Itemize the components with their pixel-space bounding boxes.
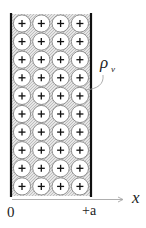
positive-charge-icon [52, 87, 69, 104]
positive-charge-icon [13, 69, 30, 86]
positive-charge-icon [52, 124, 69, 141]
positive-charge-icon [52, 105, 69, 122]
positive-charge-icon [13, 51, 30, 68]
positive-charge-icon [71, 105, 88, 122]
positive-charge-icon [52, 160, 69, 177]
positive-charge-icon [71, 178, 88, 195]
positive-charge-icon [71, 69, 88, 86]
positive-charge-icon [52, 15, 69, 32]
positive-charge-icon [33, 15, 50, 32]
positive-charge-icon [71, 51, 88, 68]
positive-charge-icon [33, 124, 50, 141]
positive-charge-icon [13, 15, 30, 32]
positive-charge-icon [71, 160, 88, 177]
origin-label: 0 [7, 204, 15, 220]
positive-charge-icon [33, 69, 50, 86]
positive-charge-icon [33, 160, 50, 177]
right-bound-label: +a [82, 203, 97, 218]
charged-slab-diagram: ρ v x 0 +a [0, 0, 146, 228]
positive-charge-icon [13, 105, 30, 122]
positive-charge-icon [13, 160, 30, 177]
positive-charge-icon [52, 51, 69, 68]
positive-charge-icon [71, 33, 88, 50]
positive-charge-icon [13, 142, 30, 159]
positive-charge-icon [52, 69, 69, 86]
x-axis-label: x [131, 188, 140, 207]
charge-density-label: ρ [99, 53, 108, 72]
positive-charge-icon [33, 33, 50, 50]
positive-charge-icon [13, 178, 30, 195]
positive-charge-icon [52, 142, 69, 159]
positive-charge-icon [52, 33, 69, 50]
positive-charge-icon [13, 33, 30, 50]
positive-charge-icon [33, 142, 50, 159]
positive-charge-icon [13, 87, 30, 104]
positive-charge-icon [13, 124, 30, 141]
positive-charge-icon [52, 178, 69, 195]
positive-charge-icon [71, 15, 88, 32]
charge-density-subscript: v [111, 64, 115, 74]
positive-charge-icon [33, 87, 50, 104]
positive-charge-icon [71, 124, 88, 141]
positive-charge-icon [33, 105, 50, 122]
positive-charge-icon [71, 142, 88, 159]
positive-charge-icon [33, 51, 50, 68]
positive-charge-icon [33, 178, 50, 195]
